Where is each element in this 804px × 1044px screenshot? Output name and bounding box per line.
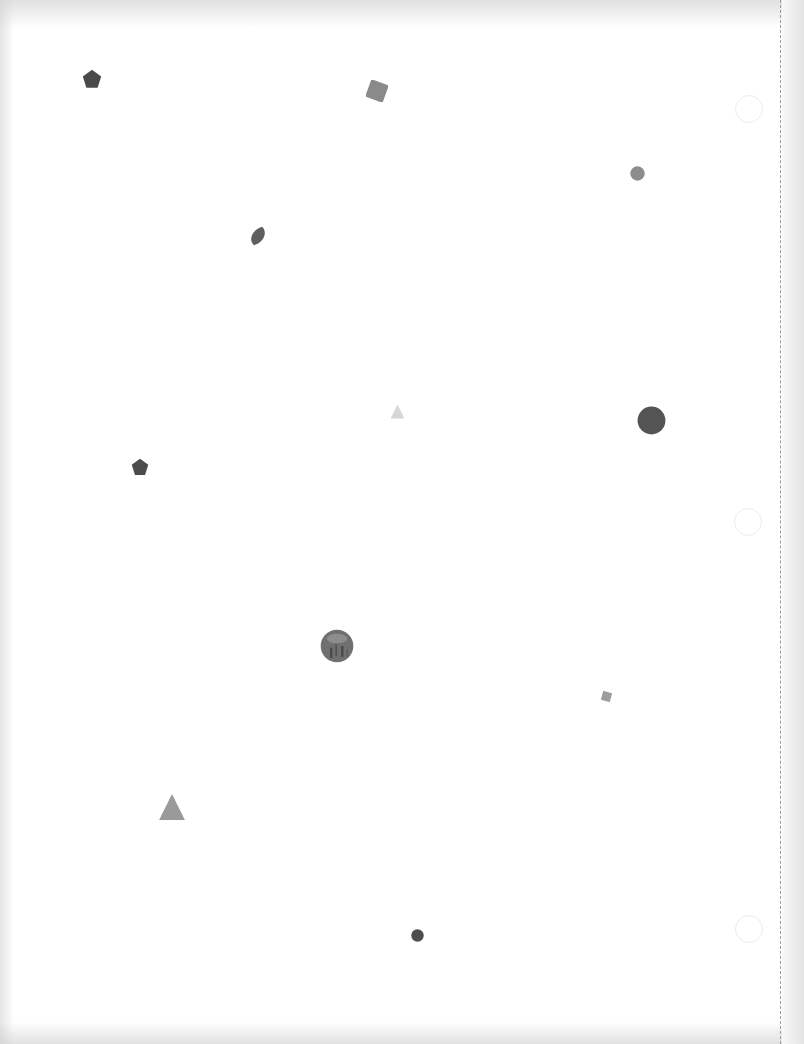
pentagon-icon [131, 458, 149, 476]
triangle-icon [158, 793, 186, 821]
square-icon [366, 80, 388, 102]
right-margin-strip [782, 0, 804, 1044]
circle-icon [637, 406, 666, 435]
paper-page [0, 0, 804, 1044]
binder-hole-icon [735, 915, 763, 943]
triangle-icon [390, 404, 405, 419]
leaf-icon [248, 226, 268, 246]
textured-circle-icon [320, 629, 354, 663]
bottom-edge-shadow [0, 1022, 804, 1044]
square-icon [601, 691, 612, 702]
circle-icon [630, 166, 645, 181]
binder-hole-icon [734, 508, 762, 536]
circle-icon [411, 929, 424, 942]
pentagon-icon [82, 69, 102, 89]
perforation-line [780, 0, 781, 1044]
top-edge-shadow [0, 0, 804, 28]
binder-hole-icon [735, 95, 763, 123]
left-edge-shadow [0, 0, 14, 1044]
